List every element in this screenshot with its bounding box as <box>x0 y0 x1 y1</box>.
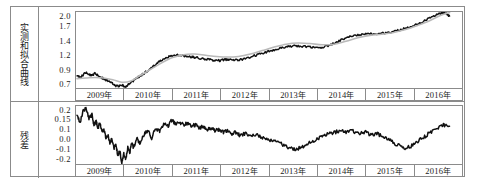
y-axis-labels-residual: 0.2 0.15 0.1 0.0 -0.1 -0.2 <box>39 101 73 178</box>
x-tick-label-fitted-2010: 2010年 <box>124 89 172 100</box>
x-tick-year-unit: 年 <box>201 165 209 176</box>
x-tick-label-fitted-2009: 2009年 <box>76 89 124 100</box>
y-tick-label-residual-5: -0.2 <box>56 155 71 164</box>
y-tick-mark-5 <box>75 157 76 158</box>
x-tick-year-unit: 年 <box>153 165 161 176</box>
x-tick-year: 2009 <box>87 166 105 176</box>
fitted-curve-svg <box>76 12 462 88</box>
x-tick-year-unit: 年 <box>443 165 451 176</box>
x-tick-label-residual-2013: 2013年 <box>270 165 318 176</box>
x-tick-year-unit: 年 <box>298 165 306 176</box>
y-tick-mark-2 <box>75 127 76 128</box>
y-tick-label-fitted-1: 1.7 <box>59 22 71 31</box>
x-tick-year-unit: 年 <box>250 89 258 100</box>
y-tick-mark-3 <box>75 53 76 54</box>
x-tick-year: 2010 <box>135 90 153 100</box>
x-tick-year-unit: 年 <box>250 165 258 176</box>
y-tick-label-fitted-5: 0.7 <box>59 80 71 89</box>
residual-svg <box>76 106 462 164</box>
x-tick-year: 2014 <box>329 166 347 176</box>
panel-caption-residual: 残差 <box>20 131 30 149</box>
panel-caption-cell-residual: 残差 <box>11 101 39 178</box>
x-tick-year-unit: 年 <box>443 89 451 100</box>
x-tick-year: 2016 <box>425 166 443 176</box>
y-tick-label-residual-1: 0.15 <box>55 115 71 124</box>
x-tick-label-fitted-2012: 2012年 <box>221 89 269 100</box>
y-tick-mark-0 <box>75 14 76 15</box>
x-tick-year: 2010 <box>135 166 153 176</box>
x-axis-strip-fitted: 2009年2010年2011年2012年2013年2014年2015年2016年 <box>75 89 463 101</box>
plot-area-fitted-curve <box>75 11 463 89</box>
x-tick-label-fitted-2014: 2014年 <box>318 89 366 100</box>
figure-root: 实测和拟合曲线 2.0 1.7 1.4 1.2 0.9 0.7 2009年201… <box>0 0 483 183</box>
x-tick-year: 2012 <box>232 90 250 100</box>
y-tick-mark-3 <box>75 137 76 138</box>
x-tick-year: 2016 <box>425 90 443 100</box>
y-tick-label-residual-4: -0.1 <box>56 145 71 154</box>
x-tick-label-residual-2011: 2011年 <box>173 165 221 176</box>
y-tick-label-residual-3: 0.0 <box>59 135 71 144</box>
x-tick-year: 2011 <box>184 166 202 176</box>
series-line-fitted <box>77 13 450 83</box>
x-tick-label-residual-2009: 2009年 <box>76 165 124 176</box>
x-tick-label-residual-2012: 2012年 <box>221 165 269 176</box>
x-tick-year-unit: 年 <box>346 165 354 176</box>
y-axis-labels-fitted: 2.0 1.7 1.4 1.2 0.9 0.7 <box>39 7 73 101</box>
x-axis-strip-residual: 2009年2010年2011年2012年2013年2014年2015年2016年 <box>75 165 463 177</box>
x-tick-year: 2014 <box>329 90 347 100</box>
x-tick-year-unit: 年 <box>395 165 403 176</box>
x-tick-year-unit: 年 <box>298 89 306 100</box>
x-tick-year: 2012 <box>232 166 250 176</box>
x-tick-year: 2009 <box>87 90 105 100</box>
x-tick-label-fitted-2016: 2016年 <box>415 89 462 100</box>
x-tick-year-unit: 年 <box>153 89 161 100</box>
x-tick-label-residual-2016: 2016年 <box>415 165 462 176</box>
y-tick-label-fitted-2: 1.4 <box>59 37 71 46</box>
panel-caption-fitted: 实测和拟合曲线 <box>20 23 30 86</box>
y-tick-mark-4 <box>75 147 76 148</box>
panel-fitted-curve: 实测和拟合曲线 2.0 1.7 1.4 1.2 0.9 0.7 2009年201… <box>11 7 464 101</box>
x-tick-year: 2015 <box>377 166 395 176</box>
x-tick-label-residual-2014: 2014年 <box>318 165 366 176</box>
x-tick-label-fitted-2015: 2015年 <box>366 89 414 100</box>
x-tick-year-unit: 年 <box>346 89 354 100</box>
series-line-measured <box>77 108 450 164</box>
plot-area-residual <box>75 105 463 165</box>
figure-frame: 实测和拟合曲线 2.0 1.7 1.4 1.2 0.9 0.7 2009年201… <box>10 6 465 177</box>
x-tick-label-fitted-2011: 2011年 <box>173 89 221 100</box>
x-tick-year-unit: 年 <box>104 89 112 100</box>
y-tick-label-fitted-4: 0.9 <box>59 66 71 75</box>
y-tick-label-fitted-0: 2.0 <box>59 12 71 21</box>
y-tick-mark-4 <box>75 68 76 69</box>
x-tick-year-unit: 年 <box>201 89 209 100</box>
x-tick-year-unit: 年 <box>104 165 112 176</box>
y-tick-mark-1 <box>75 117 76 118</box>
x-tick-label-residual-2015: 2015年 <box>366 165 414 176</box>
y-tick-mark-5 <box>75 82 76 83</box>
panel-residual: 残差 0.2 0.15 0.1 0.0 -0.1 -0.2 2009年2010年… <box>11 101 464 178</box>
x-tick-year: 2015 <box>377 90 395 100</box>
x-tick-label-residual-2010: 2010年 <box>124 165 172 176</box>
y-tick-mark-1 <box>75 24 76 25</box>
y-tick-mark-0 <box>75 108 76 109</box>
x-tick-year: 2013 <box>280 166 298 176</box>
y-tick-mark-2 <box>75 39 76 40</box>
x-tick-year: 2013 <box>280 90 298 100</box>
x-tick-label-fitted-2013: 2013年 <box>270 89 318 100</box>
y-tick-label-fitted-3: 1.2 <box>59 51 71 60</box>
x-tick-year-unit: 年 <box>395 89 403 100</box>
x-tick-year: 2011 <box>184 90 202 100</box>
y-tick-label-residual-2: 0.1 <box>59 125 71 134</box>
panel-caption-cell-fitted: 实测和拟合曲线 <box>11 7 39 101</box>
